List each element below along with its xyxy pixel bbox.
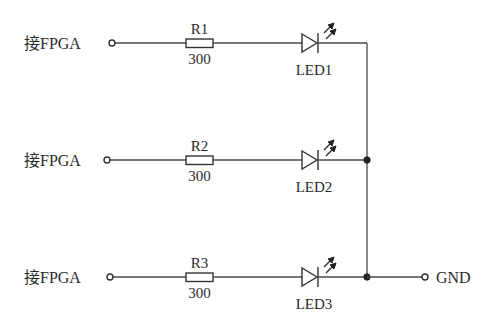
branch-1: 接FPGA R1 300 LED1: [24, 21, 367, 78]
junction-dot: [364, 157, 370, 163]
resistor-r1: [186, 39, 213, 48]
led-name: LED3: [296, 296, 333, 312]
resistor-name: R1: [191, 21, 209, 37]
resistor-r3: [186, 273, 213, 282]
led-icon: [302, 257, 336, 287]
input-terminal: [107, 274, 113, 280]
resistor-r2: [186, 156, 213, 165]
resistor-value: 300: [188, 51, 211, 67]
resistor-value: 300: [188, 168, 211, 184]
gnd-label: GND: [436, 269, 471, 286]
branch-2: 接FPGA R2 300 LED2: [24, 138, 367, 195]
led-icon: [302, 140, 336, 170]
input-terminal: [104, 157, 110, 163]
fpga-input-label: 接FPGA: [24, 35, 81, 52]
resistor-name: R2: [191, 138, 209, 154]
led-icon: [302, 23, 336, 53]
resistor-value: 300: [188, 285, 211, 301]
fpga-input-label: 接FPGA: [24, 152, 81, 169]
gnd-terminal: [422, 274, 428, 280]
led-name: LED1: [296, 62, 333, 78]
branch-3: 接FPGA R3 300 LED3: [24, 255, 367, 312]
input-terminal: [109, 40, 115, 46]
resistor-name: R3: [191, 255, 209, 271]
led-name: LED2: [296, 179, 333, 195]
fpga-input-label: 接FPGA: [24, 269, 81, 286]
ground-bus: GND: [364, 43, 471, 286]
circuit-diagram: 接FPGA R1 300 LED1 接FPGA R2 300: [0, 0, 500, 329]
